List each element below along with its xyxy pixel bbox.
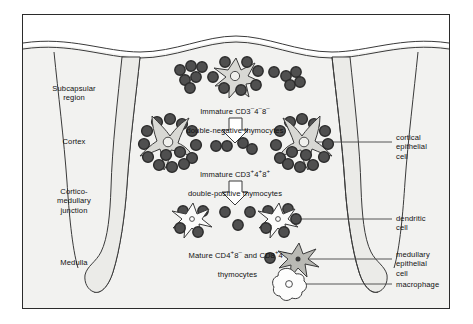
caption-mature: Mature CD4+8– and CD8+4– thymocytes [150,241,325,279]
caption-mature-line2: thymocytes [218,270,257,279]
macrophage-nucleus [286,281,293,288]
caption-mature-line1: Mature CD4+8– and CD8+4– [189,251,287,260]
callout-label-dendritic-cell: dendritic cell [396,214,456,233]
caption-dp-line2: double-positive thymocytes [188,189,282,198]
region-label-cortico-medullary-junction: Cortico- medullary junction [36,187,112,215]
thymus-diagram: Subcapsular region Cortex Cortico- medul… [0,0,473,324]
callout-label-macrophage: macrophage [396,280,460,289]
caption-double-positive: Immature CD3+4+8+ double-positive thymoc… [155,160,315,198]
caption-dn-line2: double-negative thymocytes [186,126,283,135]
callout-label-medullary-epithelial-cell: medullary epithelial cell [396,250,456,278]
region-label-subcapsular: Subcapsular region [36,84,112,103]
region-label-cortex: Cortex [36,137,112,146]
caption-double-negative: Immature CD3–4–8– double-negative thymoc… [155,97,315,135]
callout-label-cortical-epithelial-cell: cortical epithelial cell [396,133,456,161]
caption-dp-line1: Immature CD3+4+8+ [200,170,270,179]
region-label-medulla: Medulla [36,258,112,267]
caption-dn-line1: Immature CD3–4–8– [200,107,270,116]
